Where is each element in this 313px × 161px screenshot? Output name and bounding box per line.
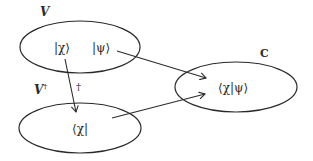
mapping-diagram: V V† C |χ⟩ |ψ⟩ ⟨χ| ⟨χ|ψ⟩ † — [0, 0, 313, 161]
dagger-superscript: † — [43, 82, 47, 91]
set-c-label: C — [260, 47, 269, 60]
bra-to-scalar-arrow — [112, 94, 205, 118]
dagger-arrow-label: † — [76, 81, 81, 92]
ket-chi: |χ⟩ — [54, 41, 70, 55]
set-v-ellipse — [20, 21, 140, 73]
set-v-label: V — [40, 5, 51, 19]
ket-psi: |ψ⟩ — [92, 41, 110, 55]
set-vdagger-label: V† — [34, 82, 47, 97]
inner-product: ⟨χ|ψ⟩ — [218, 81, 248, 95]
bra-chi: ⟨χ| — [72, 122, 88, 136]
ket-to-scalar-arrow — [117, 51, 206, 78]
